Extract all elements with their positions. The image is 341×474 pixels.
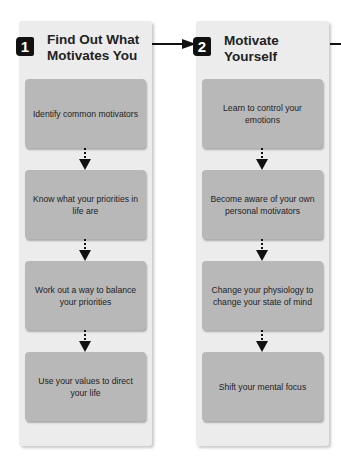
step-label: Know what your priorities in life are <box>31 193 140 217</box>
stage-1-number-badge: 1 <box>16 37 34 56</box>
step-label: Learn to control your emotions <box>208 102 317 126</box>
step-label: Change your physiology to change your st… <box>208 284 317 308</box>
stage-2-panel: 2 Motivate Yourself Learn to control you… <box>196 21 329 446</box>
step-label: Identify common motivators <box>33 108 138 120</box>
stage-1-header: 1 Find Out What Motivates You <box>19 21 152 77</box>
down-arrow-icon <box>254 330 270 352</box>
down-arrow-icon <box>77 330 93 352</box>
down-arrow-icon <box>254 148 270 170</box>
step-label: Become aware of your own personal motiva… <box>208 193 317 217</box>
down-arrow-icon <box>77 239 93 261</box>
step-label: Shift your mental focus <box>219 381 306 393</box>
down-arrow-icon <box>254 239 270 261</box>
stage-1-title: Find Out What Motivates You <box>47 32 151 64</box>
stage-2-step-4: Shift your mental focus <box>202 352 323 421</box>
stage-1-step-1: Identify common motivators <box>25 79 146 148</box>
stage-2-header: 2 Motivate Yourself <box>196 21 329 77</box>
stage-2-step-1: Learn to control your emotions <box>202 79 323 148</box>
step-label: Work out a way to balance your prioritie… <box>31 284 140 308</box>
stage-2-title: Motivate Yourself <box>224 33 334 65</box>
stage-2-step-2: Become aware of your own personal motiva… <box>202 170 323 239</box>
stage-1-step-3: Work out a way to balance your prioritie… <box>25 261 146 330</box>
stage-1-step-4: Use your values to direct your life <box>25 352 146 421</box>
stage-1-step-2: Know what your priorities in life are <box>25 170 146 239</box>
step-label: Use your values to direct your life <box>31 375 140 399</box>
stage-2-number-badge: 2 <box>193 37 211 56</box>
down-arrow-icon <box>77 148 93 170</box>
stage-1-to-2-arrow-icon <box>152 38 196 50</box>
stage-2-step-3: Change your physiology to change your st… <box>202 261 323 330</box>
stage-1-panel: 1 Find Out What Motivates You Identify c… <box>19 21 152 446</box>
